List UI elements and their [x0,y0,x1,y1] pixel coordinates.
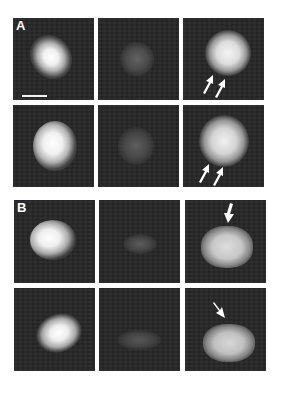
arrow-icon [213,300,227,320]
scale-bar [22,95,47,97]
merged-cell [203,324,255,362]
merged-cell [205,30,251,76]
panel-b-row1-col2 [99,200,180,283]
panel-a-row1-col2 [98,18,179,100]
arrow-icon [223,203,237,223]
panel-a-row1-col3 [183,18,264,100]
panel-label-a: A [16,19,25,33]
merged-cell [199,115,249,167]
dim-signal [118,127,154,165]
panel-b-row1-col1: B [14,200,95,283]
panel-a-row1-col1: A [13,18,94,100]
dim-signal [123,234,157,254]
panel-b-row2-col2 [99,288,180,371]
panel-a-row2-col3 [183,105,264,187]
panel-a-row2-col1 [13,105,94,187]
merged-cell [201,226,253,268]
dim-signal [120,42,154,76]
fluorescent-cell [33,121,77,171]
panel-b-row1-col3 [185,200,266,283]
fluorescent-cell [30,220,76,260]
panel-a-row2-col2 [98,105,179,187]
panel-b-row2-col3 [185,288,266,371]
panel-b-row2-col1 [14,288,95,371]
arrow-icon [213,78,227,98]
dim-signal [117,330,161,350]
panel-label-b: B [17,201,26,215]
arrow-icon [211,166,225,186]
arrow-icon [197,163,211,183]
